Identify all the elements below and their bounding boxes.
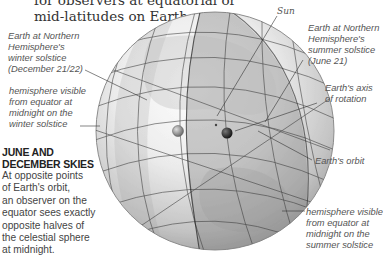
sidebar-title: JUNE AND DECEMBER SKIES: [2, 146, 95, 170]
label-axis: Earth's axis of rotation: [325, 83, 373, 105]
earth-summer-solstice: [222, 128, 233, 139]
label-summer-earth: Earth at Northern Hemisphere's summer so…: [308, 23, 379, 67]
earth-winter-solstice: [173, 126, 184, 137]
sun-marker: [215, 124, 217, 126]
label-winter-earth: Earth at Northern Hemisphere's winter so…: [8, 31, 83, 75]
sidebar-caption: JUNE AND DECEMBER SKIES At opposite poin…: [2, 146, 95, 257]
sidebar-body: At opposite points of Earth's orbit, an …: [2, 170, 95, 257]
label-orbit: Earth's orbit: [315, 156, 364, 167]
label-sun: Sun: [277, 6, 295, 17]
label-summer-hemisphere: hemisphere visible from equator at midni…: [306, 207, 383, 251]
label-winter-hemisphere: hemisphere visible from equator at midni…: [9, 86, 86, 130]
